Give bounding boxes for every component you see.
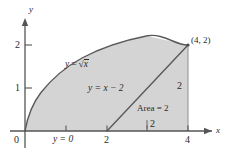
x-axis-label: x	[216, 126, 220, 135]
height-measure-label: 2	[177, 81, 182, 91]
x-tick-label-4: 4	[185, 135, 190, 145]
x-axis-arrowhead	[204, 128, 212, 134]
y-axis-label: y	[29, 5, 33, 14]
y-tick-label-2: 2	[15, 40, 20, 50]
origin-label: 0	[14, 135, 19, 145]
math-figure	[0, 0, 233, 153]
y-tick-label-1: 1	[15, 83, 20, 93]
line-label: y = x − 2	[88, 84, 124, 94]
curve-label-equals: =	[71, 59, 76, 69]
width-measure-label: 2	[150, 119, 155, 129]
x-tick-label-2: 2	[104, 135, 109, 145]
curve-label-sqrt: y=√x	[65, 59, 89, 70]
curve-label-y: y	[65, 59, 69, 69]
baseline-label: y = 0	[53, 135, 73, 145]
curve-label-arg: x	[84, 59, 89, 70]
point-label: (4, 2)	[191, 36, 211, 45]
area-label: Area = 2	[137, 104, 169, 113]
point-marker-4-2	[186, 43, 189, 46]
y-axis-arrowhead	[22, 18, 28, 26]
